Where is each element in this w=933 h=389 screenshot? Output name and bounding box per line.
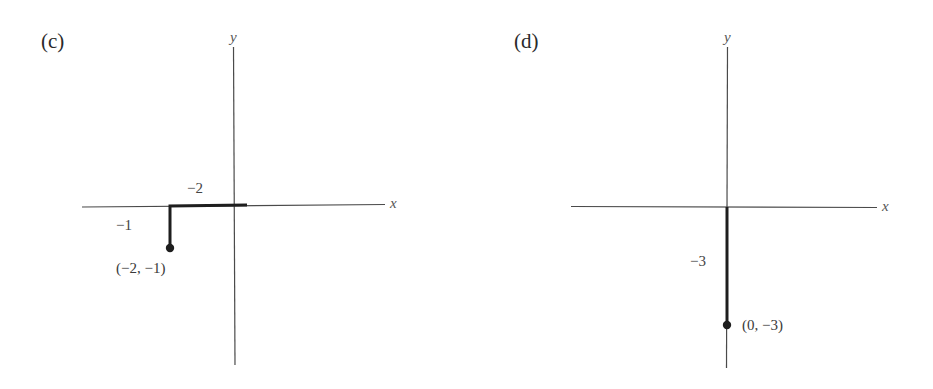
vertical-segment-label: −1 [116, 218, 132, 233]
panel-d-plot [466, 0, 933, 389]
panel-label: (d) [514, 31, 539, 52]
endpoint-label: (0, −3) [742, 318, 783, 333]
x-axis-label: x [390, 196, 397, 211]
panel-label: (c) [41, 31, 64, 52]
panel-c: (c) y x −2 −1 (−2, −1) [0, 0, 466, 389]
x-axis-label: x [882, 199, 889, 214]
vertical-segment-label: −3 [690, 254, 706, 269]
horizontal-segment-label: −2 [187, 181, 203, 196]
endpoint-dot [166, 244, 174, 252]
displacement-path [170, 205, 247, 247]
x-axis [571, 207, 877, 208]
y-axis-label: y [724, 30, 731, 45]
endpoint-dot [723, 321, 731, 329]
y-axis-label: y [230, 30, 237, 45]
panel-d: (d) y x −3 (0, −3) [466, 0, 933, 389]
endpoint-label: (−2, −1) [116, 261, 165, 276]
